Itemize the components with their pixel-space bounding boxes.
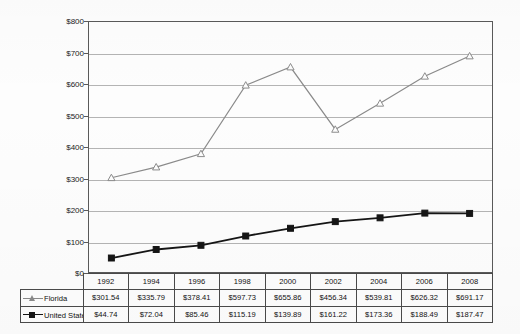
y-tick-mark — [84, 147, 88, 148]
table-row: Florida$301.54$335.79$378.41$597.73$655.… — [21, 290, 493, 307]
data-point-marker — [197, 150, 204, 156]
y-tick-label: $500 — [42, 111, 84, 120]
column-header-year: 2004 — [356, 274, 402, 290]
y-tick-mark — [84, 210, 88, 211]
data-point-marker — [198, 242, 204, 248]
column-header-year: 2000 — [265, 274, 311, 290]
series-line-florida — [111, 56, 469, 178]
data-point-marker — [288, 225, 294, 231]
table-cell-value: $378.41 — [174, 290, 220, 307]
data-point-marker — [422, 210, 428, 216]
y-tick-mark — [84, 84, 88, 85]
table-cell-value: $597.73 — [220, 290, 266, 307]
data-point-marker — [287, 63, 294, 69]
column-header-year: 2002 — [311, 274, 357, 290]
data-point-marker — [108, 255, 114, 261]
table-cell-value: $335.79 — [129, 290, 175, 307]
table-cell-value: $456.34 — [311, 290, 357, 307]
data-point-marker — [421, 73, 428, 79]
y-tick-label: $600 — [42, 80, 84, 89]
y-tick-label: $700 — [42, 48, 84, 57]
table-cell-value: $539.81 — [356, 290, 402, 307]
y-tick-label: $800 — [42, 17, 84, 26]
data-point-marker — [467, 210, 473, 216]
plot-area — [88, 21, 493, 273]
table-cell-value: $187.47 — [447, 306, 493, 323]
column-header-year: 1994 — [129, 274, 175, 290]
legend-label: Florida — [44, 294, 67, 303]
y-tick-label: $400 — [42, 143, 84, 152]
table-cell-value: $85.46 — [174, 306, 220, 323]
y-tick-label: $100 — [42, 237, 84, 246]
data-point-marker — [376, 100, 383, 106]
filled-square-icon — [23, 310, 43, 319]
table-cell-value: $301.54 — [83, 290, 129, 307]
y-tick-mark — [84, 242, 88, 243]
data-point-marker — [153, 247, 159, 253]
data-point-marker — [243, 233, 249, 239]
column-header-year: 2008 — [447, 274, 493, 290]
table-cell-value: $139.89 — [265, 306, 311, 323]
column-header-year: 2006 — [402, 274, 448, 290]
table-cell-value: $655.86 — [265, 290, 311, 307]
y-tick-label: $300 — [42, 174, 84, 183]
data-point-marker — [332, 219, 338, 225]
series-lines — [89, 22, 492, 272]
legend-marker — [29, 295, 35, 301]
data-point-marker — [242, 82, 249, 88]
table-cell-value: $188.49 — [402, 306, 448, 323]
column-header-year: 1992 — [83, 274, 129, 290]
legend-entry-united-states: United States — [21, 306, 84, 323]
y-tick-mark — [84, 53, 88, 54]
table-cell-value: $173.36 — [356, 306, 402, 323]
y-tick-mark — [84, 116, 88, 117]
line-chart-figure: $800$700$600$500$400$300$200$100$0 19921… — [0, 0, 520, 334]
table-cell-value: $626.32 — [402, 290, 448, 307]
table-header-row: 199219941996199820002002200420062008 — [21, 274, 493, 290]
column-header-year: 1996 — [174, 274, 220, 290]
legend-entry-florida: Florida — [21, 290, 84, 307]
column-header-year: 1998 — [220, 274, 266, 290]
y-tick-mark — [84, 179, 88, 180]
data-table: 199219941996199820002002200420062008Flor… — [20, 273, 493, 323]
data-point-marker — [466, 52, 473, 58]
table-cell-value: $691.17 — [447, 290, 493, 307]
table-corner-cell — [21, 274, 84, 290]
legend-label: United States — [44, 310, 83, 319]
table-cell-value: $72.04 — [129, 306, 175, 323]
data-point-marker — [377, 215, 383, 221]
table-row: United States$44.74$72.04$85.46$115.19$1… — [21, 306, 493, 323]
open-triangle-icon — [23, 294, 43, 303]
legend-marker — [29, 312, 35, 318]
table-cell-value: $44.74 — [83, 306, 129, 323]
series-line-united-states — [111, 213, 469, 258]
table-cell-value: $161.22 — [311, 306, 357, 323]
table-cell-value: $115.19 — [220, 306, 266, 323]
y-tick-mark — [84, 21, 88, 22]
y-tick-label: $200 — [42, 206, 84, 215]
y-tick-mark — [84, 273, 88, 274]
